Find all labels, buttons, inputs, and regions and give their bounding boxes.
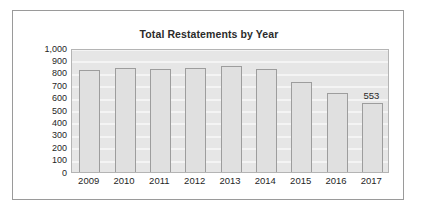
- x-tick-label-2009: 2009: [71, 175, 106, 187]
- gridline: [72, 61, 388, 63]
- bar-2016[interactable]: [327, 93, 348, 172]
- y-tick-label: 600: [19, 94, 67, 103]
- x-tick-label-2013: 2013: [212, 175, 247, 187]
- x-tick-label-2016: 2016: [318, 175, 353, 187]
- plot-area: [71, 49, 389, 173]
- x-tick-label-2011: 2011: [142, 175, 177, 187]
- y-tick-label: 1,000: [19, 45, 67, 54]
- y-tick-label: 100: [19, 156, 67, 165]
- bar-2015[interactable]: [291, 82, 312, 172]
- x-tick-label-2010: 2010: [106, 175, 141, 187]
- bar-2010[interactable]: [115, 68, 136, 172]
- bar-2009[interactable]: [79, 70, 100, 172]
- gridline: [72, 49, 388, 51]
- x-axis-tick-labels: 200920102011201220132014201520162017: [71, 175, 389, 191]
- x-tick-label-2017: 2017: [354, 175, 389, 187]
- y-tick-label: 400: [19, 119, 67, 128]
- x-tick-label-2014: 2014: [248, 175, 283, 187]
- bar-2017[interactable]: [362, 103, 383, 172]
- x-tick-label-2012: 2012: [177, 175, 212, 187]
- y-tick-label: 500: [19, 107, 67, 116]
- bar-2014[interactable]: [256, 69, 277, 172]
- y-tick-label: 800: [19, 69, 67, 78]
- chart-figure: Total Restatements by Year 1,00090080070…: [0, 0, 423, 215]
- bar-2013[interactable]: [221, 66, 242, 172]
- y-tick-label: 900: [19, 57, 67, 66]
- bar-2011[interactable]: [150, 69, 171, 172]
- y-tick-label: 300: [19, 131, 67, 140]
- bar-2012[interactable]: [185, 68, 206, 172]
- y-tick-label: 700: [19, 82, 67, 91]
- y-axis-tick-labels: 1,0009008007006005004003002001000: [15, 49, 67, 173]
- x-tick-label-2015: 2015: [283, 175, 318, 187]
- y-tick-label: 0: [19, 169, 67, 178]
- y-tick-label: 200: [19, 144, 67, 153]
- chart-frame: Total Restatements by Year 1,00090080070…: [12, 10, 404, 200]
- chart-title: Total Restatements by Year: [13, 28, 405, 40]
- bar-value-label-2017: 553: [354, 91, 389, 101]
